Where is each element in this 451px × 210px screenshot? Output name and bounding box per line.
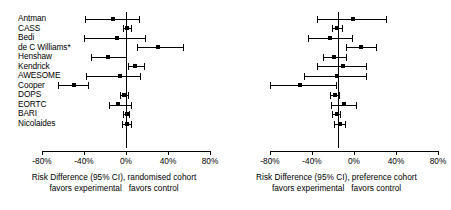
ci-upper-cap <box>342 25 343 32</box>
x-axis-tick-label: -40% <box>64 156 104 166</box>
ci-lower-cap <box>123 111 124 118</box>
point-estimate-marker <box>111 17 115 21</box>
point-estimate-marker <box>335 26 339 30</box>
ci-lower-cap <box>331 102 332 109</box>
x-axis-tick <box>354 151 355 155</box>
forest-row <box>254 90 422 100</box>
forest-row <box>42 33 210 43</box>
caption-direction-randomised: favors experimentalfavors control <box>0 183 228 194</box>
ci-upper-cap <box>366 73 367 80</box>
confidence-interval-line <box>137 47 184 48</box>
caption-preference: Risk Difference (95% CI), preference coh… <box>228 172 445 193</box>
forest-row <box>42 52 210 62</box>
point-estimate-marker <box>351 17 355 21</box>
ci-lower-cap <box>304 73 305 80</box>
caption-main-randomised: Risk Difference (95% CI), randomised coh… <box>0 172 228 183</box>
confidence-interval-line <box>109 105 132 106</box>
ci-lower-cap <box>137 44 138 51</box>
forest-row <box>254 119 422 129</box>
ci-upper-cap <box>140 73 141 80</box>
point-estimate-marker <box>328 36 332 40</box>
point-estimate-marker <box>125 112 129 116</box>
ci-lower-cap <box>128 63 129 70</box>
x-axis-tick-label: 40% <box>148 156 188 166</box>
forest-row <box>42 100 210 110</box>
ci-upper-cap <box>336 82 337 89</box>
x-axis-tick <box>396 151 397 155</box>
forest-row <box>254 33 422 43</box>
ci-lower-cap <box>270 82 271 89</box>
confidence-interval-line <box>86 76 141 77</box>
ci-lower-cap <box>85 16 86 23</box>
x-axis-tick <box>438 151 439 155</box>
x-axis-tick-label: 80% <box>418 156 451 166</box>
ci-lower-cap <box>317 63 318 70</box>
ci-lower-cap <box>122 121 123 128</box>
forest-row <box>254 24 422 34</box>
forest-row <box>42 90 210 100</box>
point-estimate-marker <box>125 26 129 30</box>
ci-lower-cap <box>84 35 85 42</box>
forest-row <box>254 52 422 62</box>
point-estimate-marker <box>118 74 122 78</box>
caption-randomised: Risk Difference (95% CI), randomised coh… <box>0 172 228 193</box>
x-axis-tick-label: 0% <box>334 156 374 166</box>
forest-row <box>42 81 210 91</box>
ci-lower-cap <box>317 16 318 23</box>
panel-preference-cohort: -80%-40%0%40%80% Risk Difference (95% CI… <box>228 0 445 210</box>
ci-upper-cap <box>386 16 387 23</box>
forest-row <box>42 119 210 129</box>
ci-lower-cap <box>323 54 324 61</box>
ci-upper-cap <box>145 35 146 42</box>
point-estimate-marker <box>116 102 120 106</box>
ci-upper-cap <box>139 16 140 23</box>
point-estimate-marker <box>133 64 137 68</box>
confidence-interval-line <box>270 85 337 86</box>
forest-row <box>42 24 210 34</box>
forest-row <box>254 43 422 53</box>
forest-row <box>42 43 210 53</box>
forest-row <box>254 110 422 120</box>
forest-row <box>254 71 422 81</box>
ci-upper-cap <box>183 44 184 51</box>
x-axis-tick-label: -80% <box>250 156 290 166</box>
ci-upper-cap <box>131 121 132 128</box>
favors-experimental-label-preference: favors experimental <box>272 183 344 194</box>
ci-lower-cap <box>346 44 347 51</box>
ci-upper-cap <box>366 63 367 70</box>
x-axis-tick <box>210 151 211 155</box>
point-estimate-marker <box>342 102 346 106</box>
ci-lower-cap <box>332 111 333 118</box>
ci-lower-cap <box>334 121 335 128</box>
ci-upper-cap <box>128 92 129 99</box>
forest-row <box>42 62 210 72</box>
ci-lower-cap <box>86 73 87 80</box>
forest-row <box>254 81 422 91</box>
forest-row <box>254 14 422 24</box>
ci-upper-cap <box>340 111 341 118</box>
ci-upper-cap <box>356 102 357 109</box>
point-estimate-marker <box>72 83 76 87</box>
x-axis-tick-label: -80% <box>22 156 62 166</box>
plot-area-randomised <box>42 14 210 144</box>
ci-upper-cap <box>88 82 89 89</box>
forest-row <box>42 71 210 81</box>
ci-lower-cap <box>332 25 333 32</box>
x-axis-tick <box>168 151 169 155</box>
point-estimate-marker <box>335 112 339 116</box>
favors-experimental-label-randomised: favors experimental <box>49 183 121 194</box>
ci-upper-cap <box>126 54 127 61</box>
x-axis-tick-label: -40% <box>292 156 332 166</box>
ci-lower-cap <box>330 92 331 99</box>
favors-control-label-preference: favors control <box>351 183 401 194</box>
x-axis-tick <box>312 151 313 155</box>
point-estimate-marker <box>332 55 336 59</box>
caption-direction-preference: favors experimentalfavors control <box>228 183 445 194</box>
ci-upper-cap <box>131 25 132 32</box>
ci-lower-cap <box>109 102 110 109</box>
x-axis-tick <box>84 151 85 155</box>
ci-upper-cap <box>352 35 353 42</box>
point-estimate-marker <box>122 93 126 97</box>
ci-lower-cap <box>120 92 121 99</box>
